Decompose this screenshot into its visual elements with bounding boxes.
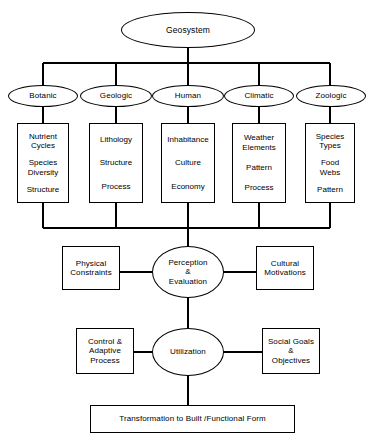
node-cultural-motivations[interactable]: Cultural Motivations: [256, 246, 314, 290]
geosystem-diagram: Geosystem Botanic Geologic Human Climati…: [0, 0, 375, 442]
attributes-botanic[interactable]: Nutrient Cycles Species Diversity Struct…: [17, 123, 69, 203]
node-human[interactable]: Human: [152, 85, 224, 107]
attribute-item: Inhabitance: [164, 135, 212, 144]
node-geosystem-label: Geosystem: [166, 25, 210, 35]
attributes-zoologic[interactable]: Species Types Food Webs Pattern: [305, 123, 355, 203]
attribute-item: Process: [92, 182, 140, 191]
attribute-item: Nutrient Cycles: [20, 132, 66, 151]
node-perception-evaluation-label: Perception & Evaluation: [168, 258, 207, 286]
node-control-adaptive-process-label: Control & Adaptive Process: [88, 337, 122, 365]
node-control-adaptive-process[interactable]: Control & Adaptive Process: [76, 328, 134, 374]
node-transformation-output-label: Transformation to Built /Functional Form: [119, 414, 265, 423]
node-utilization[interactable]: Utilization: [152, 328, 224, 376]
node-geologic-label: Geologic: [100, 91, 132, 100]
attributes-geologic[interactable]: Lithology Structure Process: [89, 123, 143, 203]
node-utilization-label: Utilization: [170, 347, 206, 356]
attribute-item: Species Types: [308, 132, 352, 151]
node-social-goals-objectives[interactable]: Social Goals & Objectives: [262, 328, 320, 374]
attributes-human[interactable]: Inhabitance Culture Economy: [161, 123, 215, 203]
attribute-item: Process: [235, 183, 283, 192]
node-perception-evaluation[interactable]: Perception & Evaluation: [152, 246, 224, 298]
node-transformation-output[interactable]: Transformation to Built /Functional Form: [90, 405, 295, 433]
node-physical-constraints-label: Physical Constraints: [70, 259, 112, 278]
node-social-goals-objectives-label: Social Goals & Objectives: [268, 337, 314, 365]
node-botanic-label: Botanic: [29, 91, 56, 100]
node-zoologic-label: Zoologic: [315, 91, 346, 100]
attribute-item: Lithology: [92, 135, 140, 144]
attribute-item: Species Diversity: [20, 158, 66, 177]
attribute-item: Culture: [164, 158, 212, 167]
node-cultural-motivations-label: Cultural Motivations: [264, 259, 306, 278]
node-geosystem[interactable]: Geosystem: [121, 12, 255, 48]
attribute-item: Weather Elements: [235, 133, 283, 152]
attribute-item: Pattern: [308, 185, 352, 194]
attribute-item: Pattern: [235, 163, 283, 172]
node-physical-constraints[interactable]: Physical Constraints: [62, 246, 120, 290]
attribute-item: Economy: [164, 182, 212, 191]
node-climatic[interactable]: Climatic: [224, 85, 294, 107]
attribute-item: Food Webs: [308, 158, 352, 177]
node-human-label: Human: [175, 91, 201, 100]
node-botanic[interactable]: Botanic: [8, 85, 78, 107]
node-zoologic[interactable]: Zoologic: [296, 85, 366, 107]
attributes-climatic[interactable]: Weather Elements Pattern Process: [232, 123, 286, 203]
attribute-item: Structure: [20, 185, 66, 194]
node-climatic-label: Climatic: [244, 91, 273, 100]
attribute-item: Structure: [92, 158, 140, 167]
node-geologic[interactable]: Geologic: [80, 85, 152, 107]
